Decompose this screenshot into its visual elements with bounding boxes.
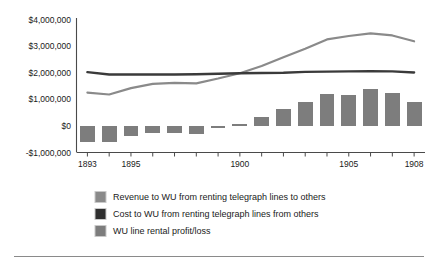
bar [363,89,378,126]
chart-figure: $4,000,000$3,000,000$2,000,000$1,000,000… [0,0,437,265]
bar [189,126,204,134]
x-axis-tick-label: 1908 [405,159,424,169]
bar [232,124,247,126]
bar [298,102,313,126]
y-axis-tick-label: $1,000,000 [28,94,71,104]
x-axis-tick-label: 1893 [78,159,97,169]
bar [211,126,226,128]
bar [320,94,335,126]
legend-label: Cost to WU from renting telegraph lines … [113,209,319,219]
legend-label: WU line rental profit/loss [113,226,211,236]
legend-swatch [95,226,106,237]
x-axis-tick-label: 1905 [339,159,358,169]
bar [276,109,291,126]
bar [102,126,117,142]
legend-label: Revenue to WU from renting telegraph lin… [113,192,326,202]
legend-item: Cost to WU from renting telegraph lines … [95,209,319,220]
bar [341,95,356,126]
legend-swatch [95,209,106,220]
bar [254,117,269,126]
x-axis-tick-label: 1900 [230,159,249,169]
y-axis-tick-label: -$1,000,000 [26,148,72,158]
bar [80,126,95,142]
bar [145,126,160,133]
chart-canvas: $4,000,000$3,000,000$2,000,000$1,000,000… [0,0,437,265]
y-axis-tick-label: $4,000,000 [28,15,71,25]
x-axis-tick-label: 1895 [121,159,140,169]
legend-swatch [95,192,106,203]
legend-item: Revenue to WU from renting telegraph lin… [95,192,326,203]
y-axis-tick-label: $0 [62,121,72,131]
y-axis-tick-label: $2,000,000 [28,68,71,78]
bar [385,93,400,126]
bar [407,102,422,126]
bar [124,126,139,136]
chart-background [0,0,437,265]
y-axis-tick-label: $3,000,000 [28,41,71,51]
bar [167,126,182,133]
legend-item: WU line rental profit/loss [95,226,211,237]
